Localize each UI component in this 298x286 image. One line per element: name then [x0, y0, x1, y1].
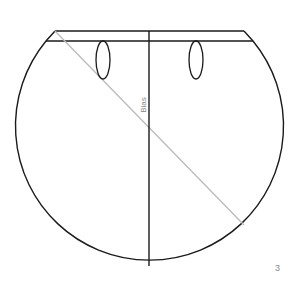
buttonhole-left	[96, 41, 110, 79]
bias-label: Bias	[139, 97, 148, 113]
circle-skirt-pattern-diagram: Bias	[0, 0, 298, 286]
page-number: 3	[275, 263, 280, 273]
buttonhole-right	[189, 41, 203, 79]
